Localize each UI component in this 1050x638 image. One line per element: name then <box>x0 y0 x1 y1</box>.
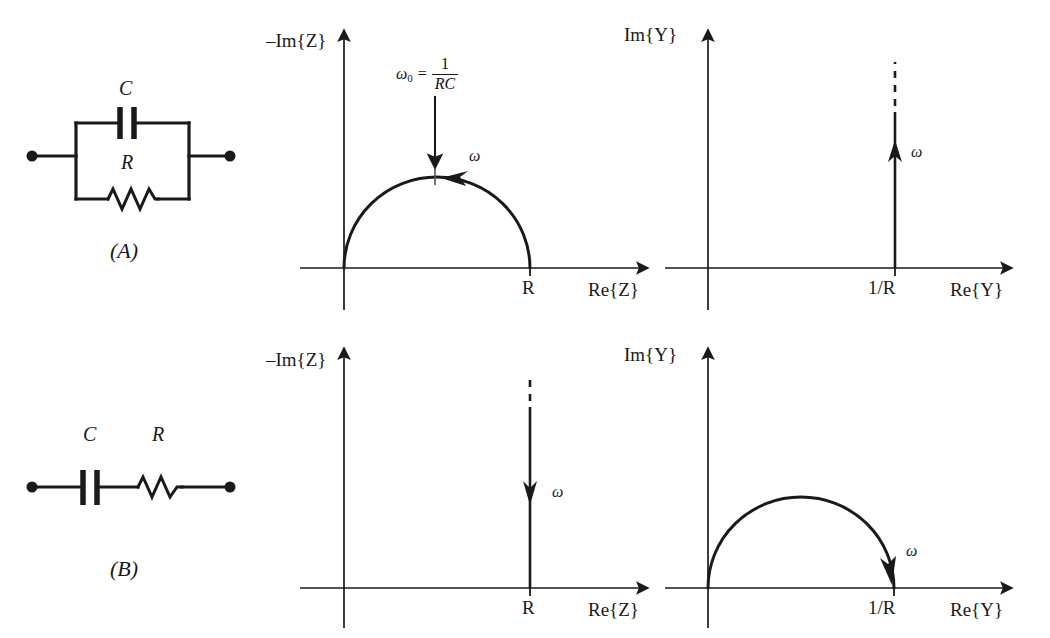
semicircle-trace <box>708 497 894 588</box>
plot-a-impedance-trace <box>344 177 530 268</box>
plot-a-impedance-point-label: R <box>522 278 535 297</box>
plot-b-admittance-point-label: 1/R <box>868 598 895 617</box>
panel-label-b: (B) <box>110 558 138 580</box>
circuit-b-capacitor-label: C <box>83 424 96 444</box>
resistor-zigzag-icon <box>138 477 182 497</box>
plot-a-admittance-xlabel: Re{Y} <box>950 280 1003 299</box>
circuit-b-resistor-label: R <box>152 424 164 444</box>
plot-a-impedance-omega-label: ω <box>469 148 480 164</box>
plot-b-impedance-xlabel: Re{Z} <box>588 600 639 619</box>
circuit-a-resistor-label: R <box>121 152 133 172</box>
plot-b-admittance-omega-label: ω <box>906 543 917 559</box>
plot-a-impedance-ylabel: –Im{Z} <box>266 31 326 50</box>
plot-b-admittance-xlabel: Re{Y} <box>950 600 1003 619</box>
one-over-rc-fraction: 1 RC <box>432 56 458 93</box>
fraction-denominator: RC <box>432 76 458 93</box>
plot-b-impedance-ylabel: –Im{Z} <box>266 350 326 369</box>
resistor-zigzag-icon <box>108 189 158 209</box>
plot-a-admittance-point-label: 1/R <box>868 278 895 297</box>
omega-zero-equals: = <box>418 66 427 82</box>
plot-a-impedance-xlabel: Re{Z} <box>588 280 639 299</box>
plot-b-admittance-axes <box>665 348 1012 628</box>
fraction-numerator: 1 <box>438 56 452 73</box>
plot-a-admittance-omega-label: ω <box>911 144 922 160</box>
plot-b-admittance-ylabel: Im{Y} <box>624 345 677 364</box>
plot-a-direction-arrow <box>441 171 468 186</box>
plot-a-admittance-ylabel: Im{Y} <box>624 25 677 44</box>
omega-zero-subscript: 0 <box>407 73 413 84</box>
omega-zero-annotation: ω0 = 1 RC <box>396 56 458 93</box>
plot-a-impedance-axes <box>300 30 648 310</box>
plot-b-admittance-trace <box>708 497 894 588</box>
plot-b-impedance-axes <box>300 348 648 628</box>
plot-b-impedance-point-label: R <box>522 598 535 617</box>
panel-label-a: (A) <box>110 240 138 262</box>
circuit-a-capacitor-label: C <box>119 78 132 98</box>
plot-a-admittance-axes <box>665 30 1012 310</box>
omega-zero-symbol: ω <box>396 66 407 82</box>
figure-vector-layer <box>0 0 1050 638</box>
capacitor-icon <box>120 107 134 139</box>
series-rc-circuit <box>27 477 236 497</box>
plot-b-impedance-omega-label: ω <box>552 484 563 500</box>
figure-canvas: C R (A) C R (B) –Im{Z} Re{Z} R ω ω0 = 1 … <box>0 0 1050 638</box>
semicircle-trace <box>344 177 530 268</box>
capacitor-icon <box>83 470 97 505</box>
